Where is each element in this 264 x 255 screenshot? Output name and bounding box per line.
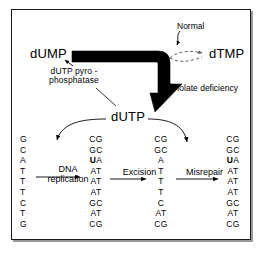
dna-base-row: AT (85, 187, 107, 198)
dna-base-row: T (20, 176, 34, 187)
dna-base-row: AT (222, 187, 244, 198)
dna-base-row: A (150, 155, 172, 166)
dna-base-row: AT (222, 176, 244, 187)
dna-base-row: CG (85, 134, 107, 145)
dna-base-row: CG (150, 134, 172, 145)
dna-base-row: AT (222, 208, 244, 219)
dna-base-row: AT (85, 166, 107, 177)
dna-base-row: UA (85, 155, 107, 166)
dna-base-row: CG (222, 134, 244, 145)
dna-base-row: AT (150, 208, 172, 219)
enzyme-label-dutpase: dUTP pyro - phosphatase (36, 67, 112, 85)
annotation-normal: Normal (177, 22, 204, 31)
pathway-diagram: dUMP dTMP dUTP dUTP pyro - phosphatase N… (0, 0, 264, 255)
dna-base-row: G (20, 134, 34, 145)
dna-base-row: CG (85, 219, 107, 230)
dna-base-row: C (20, 145, 34, 156)
dna-base-row: T (20, 187, 34, 198)
dna-base-row: C (20, 198, 34, 209)
dna-base-row: AT (222, 166, 244, 177)
enzyme-label-line2: phosphatase (49, 75, 99, 85)
dna-base-row: AT (85, 208, 107, 219)
dna-base-row: GC (150, 145, 172, 156)
dna-base-row: C (150, 198, 172, 209)
dna-base-row: CG (150, 219, 172, 230)
dna-base-row: T (150, 187, 172, 198)
dna-base-row: GC (222, 145, 244, 156)
dna-base-row: GC (85, 145, 107, 156)
dna-base-row: T (20, 208, 34, 219)
annotation-folate-deficiency: folate deficiency (177, 84, 238, 93)
molecule-label-dutp: dUTP (111, 110, 145, 124)
dna-base-plain: A (233, 155, 239, 165)
dna-base-row: UA (222, 155, 244, 166)
dna-base-row: G (20, 219, 34, 230)
dna-base-row: AT (85, 176, 107, 187)
dna-base-row: A (20, 155, 34, 166)
diagram-frame (11, 9, 251, 240)
molecule-label-dump: dUMP (30, 47, 67, 61)
dna-base-row: T (20, 166, 34, 177)
dna-sequence-template-strand: GCATTTCTG (20, 134, 34, 229)
molecule-label-dtmp: dTMP (209, 47, 244, 61)
dna-sequence-after-replication: CGGCUAATATATGCATCG (85, 134, 107, 229)
dna-base-row: T (150, 176, 172, 187)
dna-base-row: GC (85, 198, 107, 209)
dna-base-row: CG (222, 219, 244, 230)
dna-base-row: T (150, 166, 172, 177)
dna-sequence-after-excision: CGGCATTTCATCG (150, 134, 172, 229)
dna-base-plain: A (96, 155, 102, 165)
dna-base-row: GC (222, 198, 244, 209)
dna-sequence-after-misrepair: CGGCUAATATATGCATCG (222, 134, 244, 229)
